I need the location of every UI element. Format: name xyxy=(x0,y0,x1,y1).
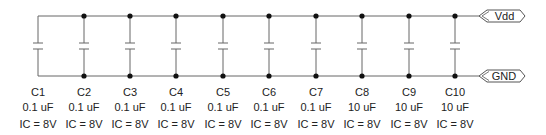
capacitor-name-label: C6 xyxy=(244,86,294,99)
capacitor-value-label: 0.1 uF xyxy=(291,101,341,114)
capacitor-value-label: 10 uF xyxy=(430,101,480,114)
capacitor-ic-label: IC = 8V xyxy=(337,118,387,131)
capacitor-ic-label: IC = 8V xyxy=(430,118,480,131)
junction-node xyxy=(220,13,225,18)
capacitor-ic-label: IC = 8V xyxy=(291,118,341,131)
capacitor-ic-label: IC = 8V xyxy=(13,118,63,131)
capacitor-c10 xyxy=(450,13,460,78)
junction-node xyxy=(173,13,178,18)
junction-node xyxy=(127,13,132,18)
capacitor-name-label: C9 xyxy=(384,86,434,99)
capacitor-value-label: 0.1 uF xyxy=(198,101,248,114)
vdd-port-label: Vdd xyxy=(489,10,520,22)
junction-node xyxy=(406,73,411,78)
capacitor-c8 xyxy=(357,13,367,78)
capacitor-value-label: 0.1 uF xyxy=(105,101,155,114)
junction-node xyxy=(406,13,411,18)
junction-node xyxy=(220,73,225,78)
junction-node xyxy=(359,13,364,18)
junction-node xyxy=(452,13,457,18)
junction-node xyxy=(359,73,364,78)
capacitor-name-label: C5 xyxy=(198,86,248,99)
capacitor-c6 xyxy=(264,13,274,78)
capacitor-c4 xyxy=(171,13,181,78)
junction-node xyxy=(266,13,271,18)
junction-node xyxy=(313,13,318,18)
capacitor-name-label: C8 xyxy=(337,86,387,99)
capacitor-c2 xyxy=(79,13,89,78)
capacitor-c9 xyxy=(404,13,414,78)
capacitor-ic-label: IC = 8V xyxy=(198,118,248,131)
capacitor-c7 xyxy=(311,13,321,78)
capacitor-ic-label: IC = 8V xyxy=(384,118,434,131)
capacitor-ic-label: IC = 8V xyxy=(59,118,109,131)
capacitor-name-label: C2 xyxy=(59,86,109,99)
capacitor-value-label: 0.1 uF xyxy=(244,101,294,114)
junction-node xyxy=(81,73,86,78)
capacitor-value-label: 0.1 uF xyxy=(151,101,201,114)
junction-node xyxy=(173,73,178,78)
capacitor-c5 xyxy=(218,13,228,78)
capacitor-name-label: C7 xyxy=(291,86,341,99)
capacitor-name-label: C1 xyxy=(13,86,63,99)
junction-node xyxy=(266,73,271,78)
gnd-port-label: GND xyxy=(487,70,521,82)
junction-node xyxy=(127,73,132,78)
capacitor-ic-label: IC = 8V xyxy=(244,118,294,131)
capacitor-ic-label: IC = 8V xyxy=(151,118,201,131)
capacitor-value-label: 10 uF xyxy=(384,101,434,114)
capacitor-name-label: C3 xyxy=(105,86,155,99)
capacitor-c1 xyxy=(33,16,43,76)
junction-node xyxy=(81,13,86,18)
capacitor-value-label: 0.1 uF xyxy=(13,101,63,114)
capacitor-ic-label: IC = 8V xyxy=(105,118,155,131)
junction-node xyxy=(313,73,318,78)
capacitor-value-label: 10 uF xyxy=(337,101,387,114)
capacitor-name-label: C10 xyxy=(430,86,480,99)
capacitor-value-label: 0.1 uF xyxy=(59,101,109,114)
schematic-diagram xyxy=(0,0,546,135)
junction-node xyxy=(452,73,457,78)
capacitor-name-label: C4 xyxy=(151,86,201,99)
capacitor-c3 xyxy=(125,13,135,78)
